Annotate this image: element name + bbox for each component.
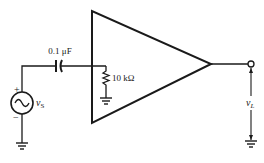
ground-icon <box>100 98 112 104</box>
capacitor-label: 0.1 μF <box>48 46 71 56</box>
ground-icon <box>16 143 28 149</box>
ac-source-symbol <box>11 92 33 114</box>
input-wire-left <box>22 66 55 92</box>
source-plus-sign: + <box>14 84 20 95</box>
circuit-diagram: 0.1 μF 10 kΩ + − vS vL <box>0 0 264 163</box>
amplifier-triangle <box>92 11 211 123</box>
source-minus-sign: − <box>13 112 19 123</box>
resistor-symbol <box>103 66 109 98</box>
output-terminal <box>248 61 254 67</box>
ground-icon <box>245 141 257 147</box>
resistor-label: 10 kΩ <box>112 73 135 83</box>
source-label: vS <box>36 97 44 110</box>
